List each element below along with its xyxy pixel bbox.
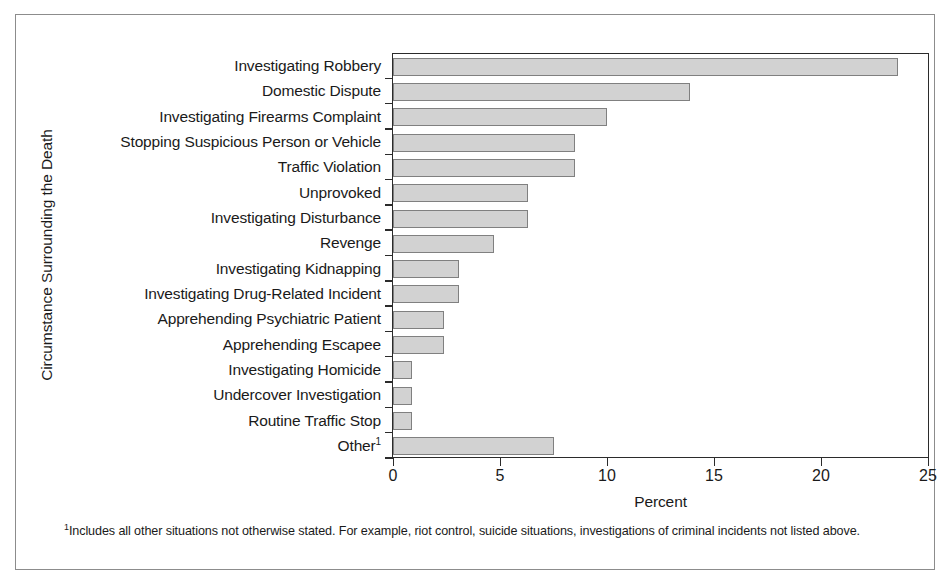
y-axis-tick-label: Revenge [56,234,381,251]
y-axis-tick-mark [385,154,393,155]
bar [393,83,690,101]
bar [393,361,412,379]
y-axis-tick-label: Investigating Drug-Related Incident [56,285,381,302]
y-axis-tick-mark [385,457,393,458]
x-axis-tick-mark [928,458,929,466]
x-axis-title: Percent [392,493,929,511]
y-axis-tick-mark [385,128,393,129]
y-axis-tick-label: Undercover Investigation [56,386,381,403]
y-axis-tick-label: Traffic Violation [56,158,381,175]
y-axis-tick-mark [385,78,393,79]
y-axis-tick-mark [385,255,393,256]
x-axis-tick-label: 20 [791,467,851,485]
footnote-text: Includes all other situations not otherw… [69,524,860,538]
y-axis-tick-mark [385,305,393,306]
y-axis-tick-label: Unprovoked [56,184,381,201]
x-axis-tick-label: 5 [470,467,530,485]
x-axis-tick-mark [607,458,608,466]
bar [393,134,575,152]
figure-panel: Circumstance Surrounding the Death Inves… [15,14,935,570]
y-axis-tick-mark [385,432,393,433]
bar [393,260,459,278]
bar [393,210,528,228]
bar [393,412,412,430]
x-axis-tick-label: 10 [577,467,637,485]
plot-area [392,53,929,458]
y-axis-tick-label: Investigating Kidnapping [56,260,381,277]
category-footnote-marker: 1 [376,436,381,447]
bar [393,437,554,455]
y-axis-tick-mark [385,229,393,230]
y-axis-tick-mark [385,204,393,205]
bar [393,58,898,76]
y-axis-tick-mark [385,179,393,180]
bar [393,311,444,329]
y-axis-tick-label: Stopping Suspicious Person or Vehicle [56,133,381,150]
y-axis-tick-label: Domestic Dispute [56,82,381,99]
x-axis-tick-label: 25 [898,467,949,485]
bar [393,336,444,354]
y-axis-category-labels: Investigating RobberyDomestic DisputeInv… [56,53,381,458]
y-axis-tick-label: Apprehending Psychiatric Patient [56,310,381,327]
y-axis-tick-mark [385,356,393,357]
y-axis-tick-label: Other1 [56,437,381,454]
bar [393,387,412,405]
bar [393,184,528,202]
bar [393,108,607,126]
bar [393,159,575,177]
x-axis-tick-mark [500,458,501,466]
y-axis-tick-label: Apprehending Escapee [56,336,381,353]
y-axis-tick-mark [385,381,393,382]
y-axis-tick-mark [385,280,393,281]
y-axis-tick-label: Investigating Homicide [56,361,381,378]
y-axis-tick-label: Investigating Robbery [56,57,381,74]
x-axis-tick-mark [393,458,394,466]
y-axis-tick-label: Investigating Disturbance [56,209,381,226]
bar [393,235,494,253]
y-axis-tick-mark [385,407,393,408]
x-axis-tick-label: 15 [684,467,744,485]
y-axis-tick-label: Routine Traffic Stop [56,412,381,429]
chart-footnote: 1Includes all other situations not other… [64,523,909,540]
x-axis-tick-mark [714,458,715,466]
y-axis-tick-mark [385,103,393,104]
x-axis-tick-mark [821,458,822,466]
y-axis-tick-label: Investigating Firearms Complaint [56,108,381,125]
bar [393,285,459,303]
y-axis-tick-mark [385,331,393,332]
x-axis-tick-label: 0 [363,467,423,485]
